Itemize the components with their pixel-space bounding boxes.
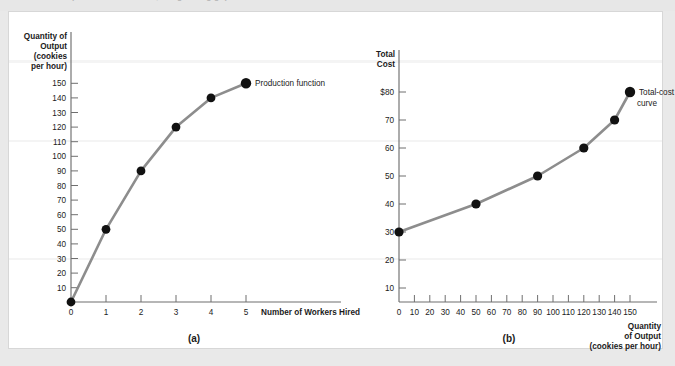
chart-b-svg: $80 70 60 50 40 30 20 10 Total Cost: [339, 12, 664, 350]
chart-a-annotation: Production function: [255, 79, 326, 88]
chart-b-xtick: 130: [592, 308, 606, 317]
data-point: [471, 199, 480, 208]
chart-a-ytick: 60: [57, 211, 67, 220]
chart-a-ytick: 90: [57, 167, 67, 176]
chart-a-ylabel-line: Quantity of: [24, 32, 67, 41]
chart-a-ytick: 10: [57, 284, 67, 293]
chart-a-ylabel-line: (cookies: [34, 52, 68, 61]
chart-b-xtick: 140: [608, 308, 622, 317]
data-point: [533, 171, 542, 180]
chart-b-ytick: 40: [385, 200, 395, 209]
data-point: [610, 115, 619, 124]
data-point: [579, 143, 588, 152]
chart-b-xtick: 40: [456, 308, 466, 317]
data-point: [172, 123, 181, 132]
data-point-labelled: [241, 78, 251, 88]
chart-b-x-axis-title: Quantity of Output (cookies per hour): [590, 322, 662, 351]
figure-panel: 150 140 130 120 110 100 90 80 70 60 50 4…: [8, 11, 663, 349]
chart-b-annotation: Total-cost curve: [637, 88, 675, 108]
chart-a-xtick: 5: [244, 308, 249, 317]
chart-a-ytick: 20: [57, 269, 67, 278]
data-point: [394, 227, 403, 236]
chart-a-ytick: 70: [57, 196, 67, 205]
chart-b-xtick: 110: [562, 308, 575, 317]
chart-b-xtick: 90: [533, 308, 543, 317]
chart-a-data-points: [67, 78, 252, 306]
chart-a-ytick: 120: [52, 123, 66, 132]
chart-b-xtick: 70: [502, 308, 512, 317]
chart-b-annotation-line: curve: [637, 99, 657, 108]
chart-b-y-ticks: [399, 92, 406, 288]
chart-b-ytick: 30: [385, 228, 395, 237]
data-point: [137, 167, 146, 176]
chart-a-xtick: 4: [209, 308, 214, 317]
chart-b-ytick: 20: [385, 256, 395, 265]
chart-b-ylabel-line: Total: [376, 50, 395, 59]
chart-b-annotation-line: Total-cost: [639, 88, 675, 97]
chart-a-curve: [71, 83, 246, 302]
chart-b-xtick: 120: [577, 308, 591, 317]
chart-a-ytick: 30: [57, 255, 67, 264]
chart-b-ylabel-line: Cost: [377, 60, 395, 69]
chart-b-xtick: 80: [518, 308, 528, 317]
chart-b-ytick: 10: [385, 284, 395, 293]
chart-a-ytick: 40: [57, 240, 67, 249]
chart-b-x-ticks: [414, 295, 630, 302]
chart-b-xtick: 10: [410, 308, 420, 317]
chart-b-curve: [399, 92, 630, 232]
chart-a-ylabel-line: per hour): [31, 62, 67, 71]
cut-off-header-strip: production function, the growing gap ...: [0, 0, 675, 11]
panel-label-a: (a): [188, 333, 200, 344]
chart-a-ytick: 50: [57, 225, 67, 234]
chart-b-x-tick-labels: 0 10 20 30 40 50 60 70 80 90 100 110 120…: [397, 308, 638, 317]
chart-a-x-ticks: [106, 295, 246, 302]
chart-a-ytick: 130: [52, 109, 66, 118]
chart-b-xtick: 100: [546, 308, 560, 317]
chart-b-ytick: 70: [385, 116, 395, 125]
chart-b-xtick: 20: [425, 308, 435, 317]
data-point: [102, 225, 111, 234]
chart-b-xlabel-line: (cookies per hour): [590, 342, 662, 351]
chart-a-xtick: 2: [139, 308, 144, 317]
chart-b-xlabel-line: Quantity: [628, 322, 662, 331]
chart-a-y-axis-title: Quantity of Output (cookies per hour): [24, 32, 68, 71]
cut-off-header-text: production function, the growing gap ...: [72, 0, 240, 1]
chart-b-xtick: 30: [441, 308, 451, 317]
chart-a-ytick: 140: [52, 94, 66, 103]
chart-b-ytick: 50: [385, 172, 395, 181]
chart-a-x-tick-labels: 0 1 2 3 4 5: [69, 308, 249, 317]
chart-a-ytick: 100: [52, 152, 66, 161]
panel-label-b: (b): [503, 333, 516, 344]
chart-a-xtick: 1: [104, 308, 109, 317]
chart-a-xtick: 3: [174, 308, 179, 317]
chart-b-y-tick-labels: $80 70 60 50 40 30 20 10: [380, 88, 394, 293]
data-point: [207, 94, 216, 103]
chart-production-function: 150 140 130 120 110 100 90 80 70 60 50 4…: [9, 12, 349, 350]
chart-a-ytick: 110: [53, 138, 66, 147]
chart-a-ytick: 150: [52, 79, 66, 88]
figure-root: production function, the growing gap ...: [0, 0, 675, 366]
chart-b-data-points: [394, 87, 635, 237]
chart-a-xtick: 0: [69, 308, 74, 317]
chart-b-xtick: 0: [397, 308, 402, 317]
chart-b-ytick: $80: [380, 88, 394, 97]
chart-b-xtick: 150: [623, 308, 637, 317]
chart-total-cost-curve: $80 70 60 50 40 30 20 10 Total Cost: [339, 12, 664, 350]
data-point-labelled: [625, 87, 635, 97]
data-point: [67, 298, 76, 307]
chart-a-svg: 150 140 130 120 110 100 90 80 70 60 50 4…: [9, 12, 349, 350]
chart-b-xtick: 60: [487, 308, 497, 317]
chart-a-ylabel-line: Output: [40, 42, 67, 51]
chart-a-y-ticks: [71, 83, 78, 287]
chart-b-xlabel-line: of Output: [624, 332, 661, 341]
chart-b-ytick: 60: [385, 144, 395, 153]
chart-b-xtick: 50: [471, 308, 481, 317]
chart-a-ytick: 80: [57, 182, 67, 191]
chart-b-y-axis-title: Total Cost: [376, 50, 395, 69]
chart-a-y-tick-labels: 150 140 130 120 110 100 90 80 70 60 50 4…: [52, 79, 66, 292]
